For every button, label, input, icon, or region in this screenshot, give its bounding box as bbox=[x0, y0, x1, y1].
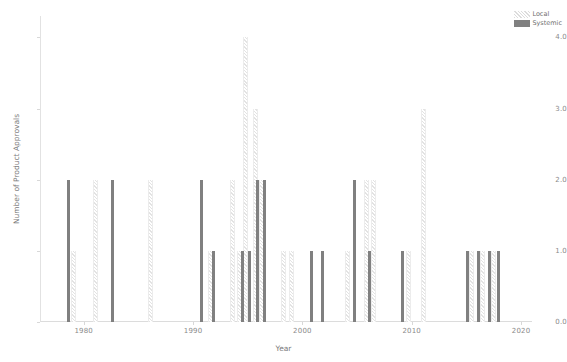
bar-local bbox=[480, 251, 485, 322]
legend-label-systemic: Systemic bbox=[532, 19, 562, 27]
x-axis-tick-label: 2010 bbox=[402, 327, 421, 335]
bar-local bbox=[289, 251, 294, 322]
y-axis-tick-label: 2.0 bbox=[534, 176, 567, 184]
legend-item-systemic[interactable]: Systemic bbox=[514, 19, 562, 27]
bar-local bbox=[406, 251, 411, 322]
bar-systemic bbox=[368, 251, 371, 322]
bar-systemic bbox=[466, 251, 469, 322]
y-axis-tick-label: 1.0 bbox=[534, 247, 567, 255]
x-axis-tick-label: 1990 bbox=[184, 327, 203, 335]
bar-systemic bbox=[477, 251, 480, 322]
bar-local bbox=[491, 251, 496, 322]
bar-systemic bbox=[212, 251, 215, 322]
x-axis-tick-mark bbox=[84, 322, 85, 325]
legend-swatch-systemic-icon bbox=[514, 20, 530, 27]
y-axis-tick-label: 4.0 bbox=[534, 33, 567, 41]
bar-systemic bbox=[67, 180, 70, 322]
bar-local bbox=[421, 109, 426, 322]
bar-systemic bbox=[488, 251, 491, 322]
bar-local bbox=[71, 251, 76, 322]
bar-local bbox=[148, 180, 153, 322]
x-axis-tick-mark bbox=[193, 322, 194, 325]
bar-systemic bbox=[310, 251, 313, 322]
bar-local bbox=[345, 251, 350, 322]
x-axis-title: Year bbox=[0, 344, 567, 353]
chart-legend: Local Systemic bbox=[514, 10, 562, 27]
bar-systemic bbox=[111, 180, 114, 322]
y-axis-tick-mark bbox=[37, 322, 40, 323]
chart-figure: 0.01.02.03.04.0 19801990200020102020 Yea… bbox=[0, 0, 567, 362]
x-axis-tick-mark bbox=[521, 322, 522, 325]
x-axis-tick-mark bbox=[302, 322, 303, 325]
y-axis-tick-label: 0.0 bbox=[534, 318, 567, 326]
x-axis-tick-label: 2000 bbox=[293, 327, 312, 335]
bar-local bbox=[281, 251, 286, 322]
bar-systemic bbox=[353, 180, 356, 322]
bar-local bbox=[230, 180, 235, 322]
bar-systemic bbox=[497, 251, 500, 322]
bar-local bbox=[371, 180, 376, 322]
y-axis-tick-mark bbox=[37, 109, 40, 110]
bar-systemic bbox=[248, 251, 251, 322]
bar-local bbox=[469, 251, 474, 322]
y-axis-title: Number of Product Approvals bbox=[12, 114, 21, 224]
x-axis-tick-mark bbox=[412, 322, 413, 325]
bar-systemic bbox=[263, 180, 266, 322]
x-axis-tick-label: 1980 bbox=[74, 327, 93, 335]
y-axis-tick-mark bbox=[37, 37, 40, 38]
x-axis-tick-label: 2020 bbox=[512, 327, 531, 335]
bar-systemic bbox=[241, 251, 244, 322]
legend-label-local: Local bbox=[532, 10, 549, 18]
bar-systemic bbox=[200, 180, 203, 322]
bar-systemic bbox=[256, 180, 259, 322]
legend-item-local[interactable]: Local bbox=[514, 10, 562, 18]
y-axis-tick-label: 3.0 bbox=[534, 105, 567, 113]
bar-systemic bbox=[401, 251, 404, 322]
legend-swatch-local-icon bbox=[514, 11, 530, 18]
bar-systemic bbox=[321, 251, 324, 322]
bar-local bbox=[93, 180, 98, 322]
y-axis-tick-mark bbox=[37, 251, 40, 252]
y-axis-tick-mark bbox=[37, 180, 40, 181]
